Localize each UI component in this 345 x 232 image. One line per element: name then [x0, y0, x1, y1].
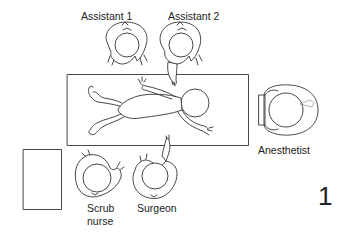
- assistant-2-figure: [160, 22, 202, 86]
- instrument-table: [24, 150, 62, 210]
- label-assistant-2: Assistant 2: [168, 10, 219, 22]
- label-scrub-nurse-line1: Scrub: [87, 202, 114, 214]
- patient-figure: [88, 77, 213, 135]
- label-anesthetist: Anesthetist: [258, 144, 310, 156]
- scrub-nurse-figure: [75, 150, 124, 197]
- anesthetist-figure: [259, 85, 318, 135]
- or-layout-drawing: [0, 0, 345, 232]
- figure-number: 1: [318, 182, 332, 210]
- label-scrub-nurse-line2: nurse: [87, 215, 113, 227]
- label-surgeon: Surgeon: [137, 202, 177, 214]
- surgeon-figure: [133, 135, 177, 198]
- label-assistant-1: Assistant 1: [81, 10, 132, 22]
- assistant-1-figure: [106, 22, 147, 65]
